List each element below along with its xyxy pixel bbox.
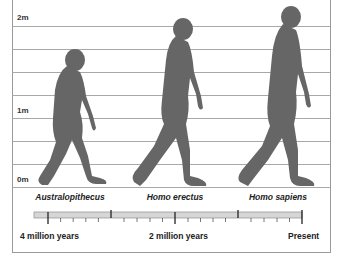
timeline-label-middle: 2 million years xyxy=(149,231,208,241)
timeline-bar xyxy=(0,0,342,260)
timeline-label-start: 4 million years xyxy=(20,231,79,241)
timeline-label-end: Present xyxy=(288,231,319,241)
